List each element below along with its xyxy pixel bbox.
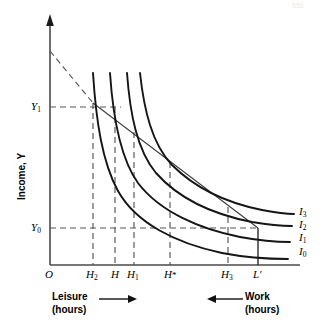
work-annotation-line2: (hours) <box>245 304 279 317</box>
budget-line-solid-segment <box>93 103 258 228</box>
x-tick-label-Lprime: L′ <box>253 269 262 280</box>
x-tick-label-H1: H1 <box>127 269 139 280</box>
work-annotation: Work (hours) <box>245 291 279 316</box>
indifference-curve-I1 <box>110 73 290 242</box>
leisure-annotation: Leisure (hours) <box>52 291 88 316</box>
budget-constraint-group <box>50 51 258 228</box>
indifference-curve-I0 <box>93 73 288 259</box>
indifference-curve-I2 <box>127 73 292 226</box>
work-arrow-icon <box>205 293 245 305</box>
y-tick-label-Y0: Y0 <box>31 222 41 233</box>
indifference-curves-group <box>93 73 294 259</box>
indifference-curve-I3 <box>140 73 294 214</box>
x-tick-label-Hstar: H* <box>164 269 176 280</box>
y-tick-label-Y1: Y1 <box>31 101 41 112</box>
curve-label-I1: I1 <box>299 232 306 243</box>
x-axis-origin-label: O <box>45 269 53 280</box>
curve-label-I3: I3 <box>299 206 306 217</box>
curve-label-I2: I2 <box>299 219 306 230</box>
horizontal-reference-lines <box>50 107 258 228</box>
indifference-curve-figure: 555 <box>0 0 327 325</box>
x-tick-label-H: H <box>111 269 119 280</box>
leisure-arrow-icon <box>99 293 139 305</box>
vertical-reference-lines <box>93 103 228 265</box>
axes-group <box>46 14 300 265</box>
curve-label-I0: I0 <box>299 246 306 257</box>
y-axis-title: Income, Y <box>16 153 29 200</box>
budget-line-dashed-segment <box>50 51 93 103</box>
x-tick-label-H3: H3 <box>221 269 233 280</box>
leisure-annotation-line1: Leisure <box>52 291 88 304</box>
y-axis-arrowhead <box>46 14 54 26</box>
work-annotation-line1: Work <box>245 291 279 304</box>
x-tick-label-H2: H2 <box>86 269 98 280</box>
leisure-annotation-line2: (hours) <box>52 304 88 317</box>
